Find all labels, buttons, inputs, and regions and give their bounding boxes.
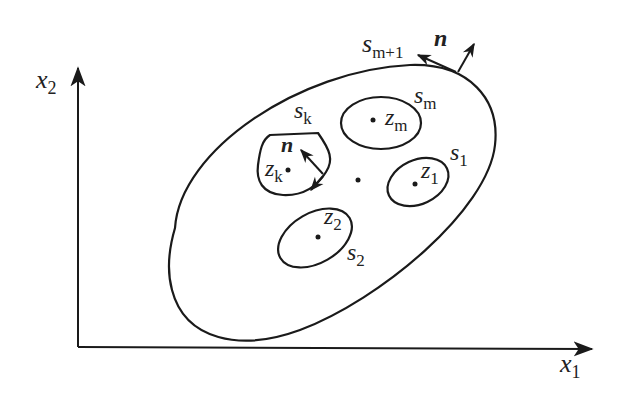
point-z-m bbox=[371, 118, 376, 123]
inner-boundary-s-m bbox=[341, 97, 421, 149]
outer-normal-arrow bbox=[458, 44, 474, 72]
z-k-label: zk bbox=[264, 155, 283, 186]
inner-normal-label: n bbox=[281, 132, 293, 157]
point-z-2 bbox=[316, 235, 321, 240]
x1-axis-label: x1 bbox=[559, 349, 581, 382]
outer-normal-label: n bbox=[434, 25, 447, 51]
point-z-1 bbox=[413, 182, 418, 187]
x2-axis-label: x2 bbox=[35, 65, 57, 98]
center-point bbox=[356, 178, 361, 183]
z-1-label: z1 bbox=[420, 157, 439, 188]
inner-boundary-s-2 bbox=[268, 196, 362, 279]
s-2-label: s2 bbox=[347, 239, 365, 270]
inner-normal-arrow bbox=[301, 150, 323, 174]
s-m-label: sm bbox=[414, 82, 437, 113]
point-z-k bbox=[286, 168, 291, 173]
inner-boundary-s-1 bbox=[380, 149, 457, 216]
z-2-label: z2 bbox=[323, 203, 342, 234]
outer-tangent-arrow bbox=[418, 55, 456, 72]
s-k-label: sk bbox=[294, 97, 312, 128]
s-1-label: s1 bbox=[450, 139, 468, 170]
inner-tangent-arrow bbox=[311, 176, 323, 190]
x1-axis bbox=[78, 347, 592, 349]
diagram-canvas: x2 x1 n sm+1 sk zk n sm zm s1 z1 s2 bbox=[0, 0, 622, 398]
outer-boundary-label: sm+1 bbox=[362, 29, 403, 62]
z-m-label: zm bbox=[384, 104, 408, 135]
